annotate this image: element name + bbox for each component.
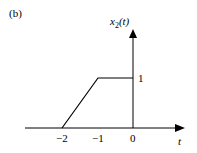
x-axis-arrow-icon <box>175 124 185 132</box>
x-tick-neg1: −1 <box>92 133 104 144</box>
y-tick-1: 1 <box>138 73 144 84</box>
x-tick-neg2: −2 <box>56 133 68 144</box>
x-axis-label: t <box>178 136 181 147</box>
plot-area <box>0 0 197 153</box>
x-tick-0: 0 <box>130 133 136 144</box>
signal-line <box>62 78 133 128</box>
y-axis-label: x2(t) <box>110 16 129 30</box>
figure: (b) x2(t) 1 −2 −1 0 t <box>0 0 197 153</box>
y-axis-arrow-icon <box>129 29 137 38</box>
